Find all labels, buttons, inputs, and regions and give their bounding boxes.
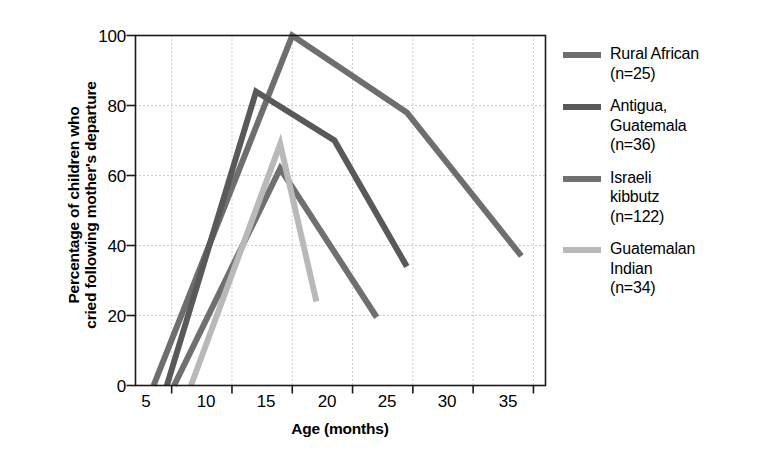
legend-label-rural-african: Rural African (n=25) — [610, 44, 699, 83]
legend-label-antigua-guatemala: Antigua, Guatemala (n=36) — [610, 96, 686, 155]
legend-item-israeli-kibbutz[interactable]: Israeli kibbutz (n=122) — [563, 168, 763, 227]
legend-swatch-antigua-guatemala — [563, 104, 601, 110]
chart-figure: Percentage of children who cried followi… — [0, 0, 768, 459]
data-lines — [154, 36, 522, 386]
legend-swatch-guatemalan-indian — [563, 247, 601, 253]
data-line-guatemalan-indian — [191, 144, 316, 386]
axis-ticks — [127, 36, 534, 394]
chart-legend: Rural African (n=25) Antigua, Guatemala … — [563, 44, 763, 311]
legend-label-guatemalan-indian: Guatemalan Indian (n=34) — [610, 239, 695, 298]
legend-item-antigua-guatemala[interactable]: Antigua, Guatemala (n=36) — [563, 96, 763, 155]
legend-swatch-rural-african — [563, 52, 601, 58]
legend-item-rural-african[interactable]: Rural African (n=25) — [563, 44, 763, 83]
legend-label-israeli-kibbutz: Israeli kibbutz (n=122) — [610, 168, 664, 227]
legend-swatch-israeli-kibbutz — [563, 176, 601, 182]
legend-item-guatemalan-indian[interactable]: Guatemalan Indian (n=34) — [563, 239, 763, 298]
data-line-antigua-guatemala — [167, 92, 407, 386]
